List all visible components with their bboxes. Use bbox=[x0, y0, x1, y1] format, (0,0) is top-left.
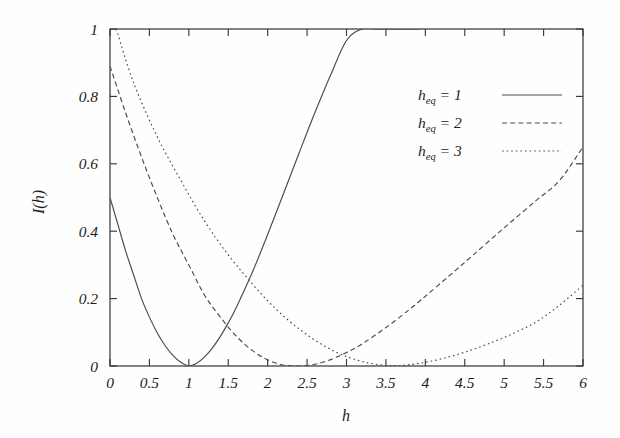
plot-frame bbox=[110, 29, 583, 366]
y-tick-label: 0.2 bbox=[79, 290, 99, 307]
x-tick-label: 5.5 bbox=[534, 374, 554, 391]
figure-container: 00.511.522.533.544.555.56 00.20.40.60.81… bbox=[0, 0, 620, 438]
x-tick-label: 0 bbox=[106, 374, 114, 391]
legend: heq = 1heq = 2heq = 3 bbox=[418, 86, 562, 162]
y-tick-label: 0.4 bbox=[79, 223, 99, 240]
plot-svg: 00.511.522.533.544.555.56 00.20.40.60.81… bbox=[0, 0, 620, 438]
x-axis-title: h bbox=[342, 407, 350, 424]
x-tick-label: 4 bbox=[421, 374, 429, 391]
legend-label-3: heq = 3 bbox=[418, 142, 462, 162]
x-tick-label: 2 bbox=[264, 374, 272, 391]
x-tick-label: 5 bbox=[500, 374, 508, 391]
x-tick-label: 2.5 bbox=[297, 374, 317, 391]
data-curves bbox=[110, 28, 583, 366]
y-tick-label: 0.8 bbox=[79, 88, 99, 105]
curve-series-2 bbox=[110, 66, 583, 366]
x-tick-label: 1.5 bbox=[219, 374, 239, 391]
x-tick-label: 0.5 bbox=[140, 374, 160, 391]
y-axis-tick-labels: 00.20.40.60.81 bbox=[79, 21, 99, 375]
y-tick-label: 1 bbox=[90, 21, 98, 38]
x-tick-label: 4.5 bbox=[455, 374, 475, 391]
x-axis-tick-labels: 00.511.522.533.544.555.56 bbox=[106, 374, 587, 391]
curve-series-3 bbox=[116, 29, 583, 366]
legend-label-2: heq = 2 bbox=[418, 114, 462, 134]
x-tick-label: 1 bbox=[185, 374, 193, 391]
y-tick-label: 0 bbox=[90, 358, 98, 375]
y-axis-ticks bbox=[110, 29, 583, 366]
y-tick-label: 0.6 bbox=[79, 155, 99, 172]
x-tick-label: 6 bbox=[579, 374, 587, 391]
x-axis-ticks bbox=[110, 29, 583, 366]
legend-label-1: heq = 1 bbox=[418, 86, 462, 106]
curve-series-1 bbox=[110, 28, 419, 366]
x-tick-label: 3 bbox=[342, 374, 351, 391]
y-axis-title: I(h) bbox=[30, 190, 48, 215]
x-tick-label: 3.5 bbox=[375, 374, 396, 391]
